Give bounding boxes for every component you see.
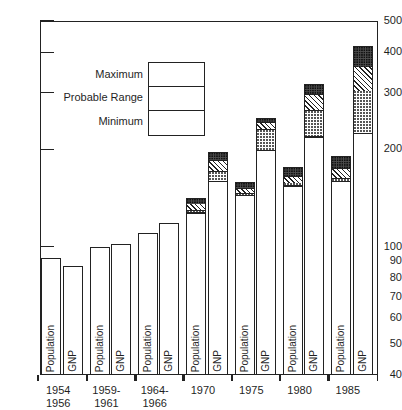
y-axis-tick-mark <box>40 246 54 247</box>
x-axis-group-label: 1975 <box>227 384 275 397</box>
bar-vertical-label: Population <box>336 325 346 372</box>
legend-swatch-min <box>149 110 204 134</box>
segment-minimum <box>257 130 275 151</box>
segment-divider <box>187 212 205 213</box>
x-axis-group-label: 1985 <box>324 384 372 397</box>
chart-title <box>0 0 402 7</box>
segment-divider <box>284 185 302 186</box>
bar-gnp-1: GNP <box>111 244 131 375</box>
x-axis-group-label: 1980 <box>275 384 323 397</box>
x-axis-group-label-line: 1954 <box>34 384 82 397</box>
bar-gnp-4: GNP <box>256 118 276 375</box>
y-axis-tick-mark <box>40 149 54 150</box>
x-axis-group-label-line: 1966 <box>131 397 179 410</box>
x-axis-tick-mark <box>182 375 183 381</box>
segment-divider <box>257 150 275 151</box>
bar-vertical-label: Population <box>240 325 250 372</box>
bar-vertical-label: Population <box>46 325 56 372</box>
legend-swatch-box <box>148 62 205 136</box>
bar-gnp-0: GNP <box>63 266 83 375</box>
bar-population-0: Population <box>41 258 61 375</box>
x-axis-tick-mark <box>327 375 328 381</box>
segment-divider <box>236 195 254 196</box>
x-axis-group-label: 1959-1961 <box>82 384 130 409</box>
legend-label-max: Maximum <box>0 69 143 80</box>
x-axis-group-label: 1964-1966 <box>131 384 179 409</box>
bar-population-4: Population <box>235 182 255 375</box>
bar-vertical-label: GNP <box>213 350 223 372</box>
x-axis-group-label: 1970 <box>179 384 227 397</box>
legend-swatch-max <box>149 63 204 87</box>
bar-vertical-label: GNP <box>68 350 78 372</box>
y-axis-tick-label: 400 <box>368 46 402 57</box>
bar-vertical-label: GNP <box>309 350 319 372</box>
x-axis-tick-mark <box>279 375 280 381</box>
bar-vertical-label: Population <box>288 325 298 372</box>
x-axis-tick-mark <box>87 375 88 381</box>
x-axis-tick-mark <box>134 375 135 381</box>
bar-population-1: Population <box>90 247 110 375</box>
y-axis-tick-label: 50 <box>368 338 402 349</box>
legend-divider <box>149 110 204 111</box>
bar-population-3: Population <box>186 198 206 375</box>
x-axis-group-label-line: 1985 <box>324 384 372 397</box>
bar-vertical-label: Population <box>191 325 201 372</box>
y-axis-tick-label: 500 <box>368 15 402 26</box>
x-axis-tick-mark <box>135 375 136 381</box>
bar-population-6: Population <box>331 156 351 375</box>
bar-vertical-label: GNP <box>261 350 271 372</box>
segment-divider <box>305 136 323 137</box>
x-axis-tick-mark <box>328 375 329 381</box>
y-axis-tick-label: 70 <box>368 291 402 302</box>
y-axis-tick-label: 40 <box>368 369 402 380</box>
x-axis-group-label: 19541956 <box>34 384 82 409</box>
bar-vertical-label: Population <box>143 325 153 372</box>
x-axis-group-label-line: 1980 <box>275 384 323 397</box>
segment-probable-range <box>305 95 323 111</box>
bar-vertical-label: GNP <box>358 350 368 372</box>
y-axis-tick-label: 90 <box>368 255 402 266</box>
y-axis-tick-mark <box>40 20 54 21</box>
bar-vertical-label: Population <box>95 325 105 372</box>
y-axis-tick-mark <box>40 52 54 53</box>
chart-root: 405060708090100200300400500 PopulationGN… <box>0 0 402 410</box>
y-axis-tick-label: 300 <box>368 87 402 98</box>
y-axis-tick-label: 60 <box>368 312 402 323</box>
legend-label-prob: Probable Range <box>0 92 143 103</box>
x-axis-tick-mark <box>86 375 87 381</box>
x-axis-group-label-line: 1964- <box>131 384 179 397</box>
legend-label-min: Minimum <box>0 116 143 127</box>
bar-vertical-label: GNP <box>116 350 126 372</box>
legend-swatch-prob <box>149 87 204 111</box>
segment-maximum <box>354 47 372 67</box>
y-axis-tick-label: 100 <box>368 241 402 252</box>
x-axis-group-label-line: 1959- <box>82 384 130 397</box>
x-axis-group-label-line: 1956 <box>34 397 82 410</box>
bar-population-5: Population <box>283 167 303 375</box>
segment-maximum <box>332 157 350 169</box>
x-axis-group-label-line: 1961 <box>82 397 130 410</box>
bar-gnp-5: GNP <box>304 84 324 375</box>
x-axis-group-label-line: 1975 <box>227 384 275 397</box>
y-axis-tick-label: 80 <box>368 272 402 283</box>
segment-divider <box>332 181 350 182</box>
x-axis-tick-mark <box>280 375 281 381</box>
bar-gnp-6: GNP <box>353 46 373 375</box>
bar-gnp-2: GNP <box>159 223 179 375</box>
bar-gnp-3: GNP <box>208 152 228 375</box>
x-axis-group-label-line: 1970 <box>179 384 227 397</box>
segment-divider <box>209 181 227 182</box>
legend-divider <box>149 86 204 87</box>
segment-minimum <box>305 111 323 137</box>
x-axis-tick-mark <box>232 375 233 381</box>
segment-probable-range <box>209 161 227 172</box>
x-axis-tick-mark <box>37 375 38 381</box>
segment-probable-range <box>354 67 372 91</box>
segment-divider <box>354 133 372 134</box>
bar-population-2: Population <box>138 233 158 375</box>
bar-vertical-label: GNP <box>164 350 174 372</box>
x-axis-tick-mark <box>231 375 232 381</box>
x-axis-tick-mark <box>183 375 184 381</box>
y-axis-tick-label: 200 <box>368 143 402 154</box>
segment-minimum <box>354 91 372 133</box>
